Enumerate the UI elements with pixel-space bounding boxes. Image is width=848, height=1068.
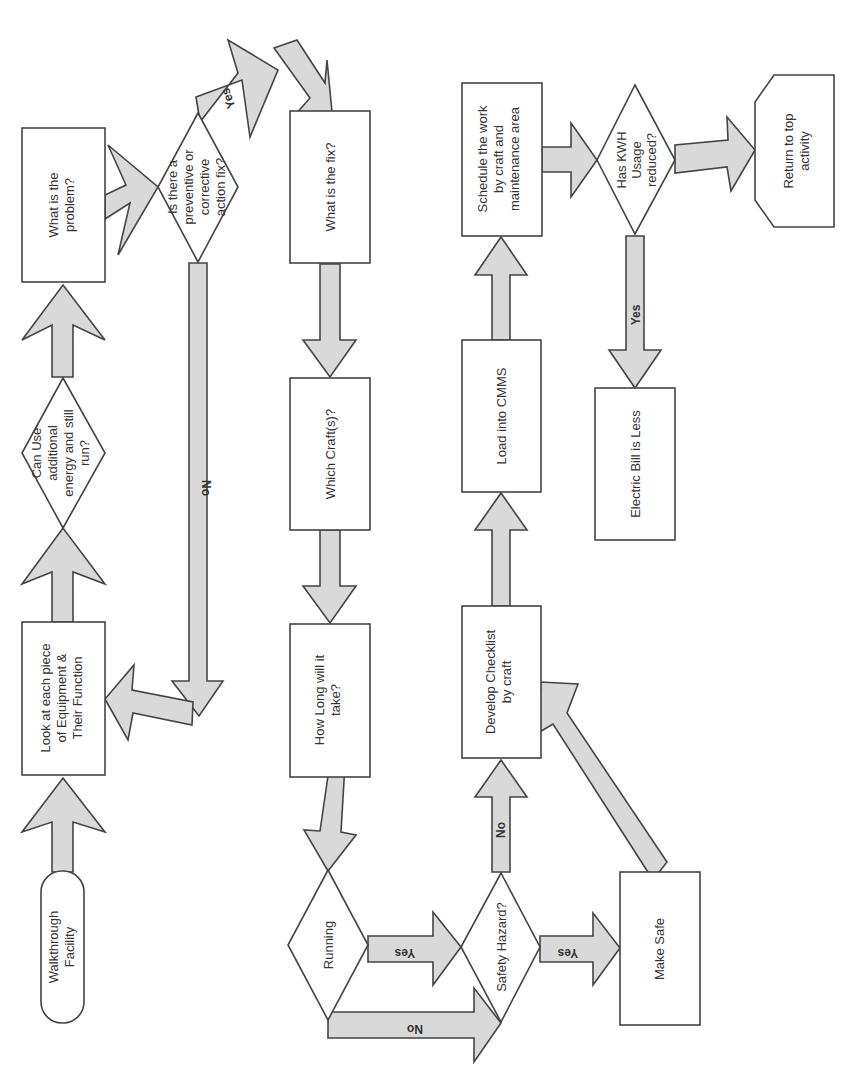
arrow-is-there-yes — [196, 40, 278, 137]
node-label: Is there a — [165, 159, 180, 214]
node-cmms: Load into CMMS — [462, 340, 541, 492]
node-label: action fix? — [213, 158, 228, 217]
svg-text:Which Craft(s)?: Which Craft(s)? — [323, 409, 338, 499]
arrow-into-fix — [274, 40, 332, 115]
svg-text:Is there a: Is there a — [165, 159, 180, 214]
node-label: additional — [45, 425, 60, 481]
node-look: Look at each piece of Equipment & Their … — [22, 622, 105, 775]
node-label: What is the fix? — [323, 143, 338, 232]
svg-text:by craft and: by craft and — [491, 125, 506, 193]
node-bill: Electric Bill is Less — [595, 388, 675, 540]
node-label: Safety Hazard? — [494, 902, 509, 992]
node-running: Running — [288, 870, 368, 1020]
node-return: Return to top activity — [755, 75, 834, 227]
svg-text:by craft: by craft — [499, 660, 514, 703]
svg-text:Safety Hazard?: Safety Hazard? — [494, 902, 509, 992]
node-label: maintenance area — [507, 106, 522, 211]
node-label: preventive or — [181, 149, 196, 225]
node-label: Can Use — [29, 428, 44, 479]
node-label: corrective — [197, 159, 212, 215]
node-label: take? — [328, 684, 343, 716]
node-label: What is the — [46, 172, 61, 237]
node-label: Make Safe — [652, 918, 667, 980]
svg-text:of Equipment &: of Equipment & — [54, 653, 69, 742]
arrow-walkthrough-to-look — [22, 778, 105, 872]
node-can-use: Can Use additional energy and still run? — [22, 378, 105, 528]
svg-text:What is the: What is the — [46, 172, 61, 237]
node-label: by craft and — [491, 125, 506, 193]
node-walkthrough: Walkthrough Facility — [41, 871, 84, 1023]
arrow-how-long-to-running — [304, 762, 356, 871]
svg-text:Can Use: Can Use — [29, 428, 44, 479]
node-label: Facility — [62, 926, 77, 967]
node-label: reduced? — [644, 133, 659, 187]
svg-text:Facility: Facility — [62, 926, 77, 967]
node-label: of Equipment & — [54, 653, 69, 742]
svg-text:Electric Bill is Less: Electric Bill is Less — [628, 410, 643, 518]
svg-text:Look at each piece: Look at each piece — [38, 643, 53, 752]
svg-text:reduced?: reduced? — [644, 133, 659, 187]
node-is-there: Is there a preventive or corrective acti… — [158, 113, 238, 262]
svg-text:Walkthrough: Walkthrough — [46, 911, 61, 984]
svg-text:Running: Running — [321, 921, 336, 969]
arrow-fix-to-craft — [303, 264, 356, 377]
svg-text:maintenance area: maintenance area — [507, 106, 522, 211]
node-label: Return to top — [781, 113, 796, 188]
arrow-schedule-to-kwh — [542, 123, 597, 197]
arrow-problem-to-is-there — [105, 145, 158, 255]
arrow-is-there-no — [172, 263, 223, 716]
arrow-safety-yes — [540, 913, 620, 985]
node-safety: Safety Hazard? — [461, 873, 540, 1022]
arrow-no-into-look — [105, 665, 193, 740]
edge-label-kwh-yes: Yes — [629, 304, 643, 325]
edge-label-is-there-no: No — [199, 480, 213, 496]
svg-text:Their Function: Their Function — [70, 656, 85, 739]
svg-text:problem?: problem? — [62, 178, 77, 232]
node-make-safe: Make Safe — [620, 872, 700, 1025]
svg-text:preventive or: preventive or — [181, 149, 196, 225]
flowchart-canvas: Yes No Yes No Yes No Yes Walkthrough Fac… — [0, 0, 848, 1068]
edge-label-running-no: No — [407, 1022, 423, 1036]
node-problem: What is the problem? — [22, 128, 105, 282]
node-label: by craft — [499, 660, 514, 703]
node-craft: Which Craft(s)? — [290, 378, 370, 530]
node-label: How Long will it — [312, 654, 327, 745]
node-label: energy and still — [61, 409, 76, 497]
node-label: Has KWH — [614, 131, 629, 188]
node-label: Walkthrough — [46, 911, 61, 984]
node-label: Schedule the work — [475, 105, 490, 212]
node-label: Look at each piece — [38, 643, 53, 752]
node-how-long: How Long will it take? — [290, 624, 370, 777]
svg-text:Make Safe: Make Safe — [652, 918, 667, 980]
edge-label-safety-no: No — [494, 822, 508, 838]
svg-text:take?: take? — [328, 684, 343, 716]
svg-text:run?: run? — [77, 440, 92, 466]
svg-text:How Long will it: How Long will it — [312, 654, 327, 745]
node-label: Electric Bill is Less — [628, 410, 643, 518]
node-schedule: Schedule the work by craft and maintenan… — [462, 83, 542, 236]
svg-text:Usage: Usage — [629, 141, 644, 179]
node-kwh: Has KWH Usage reduced? — [597, 85, 675, 234]
edge-label-safety-yes: Yes — [557, 946, 578, 960]
node-label: Which Craft(s)? — [323, 409, 338, 499]
node-label: Usage — [629, 141, 644, 179]
arrow-make-safe-to-checklist — [538, 682, 667, 880]
svg-text:Schedule the work: Schedule the work — [475, 105, 490, 212]
svg-text:additional: additional — [45, 425, 60, 481]
node-label: Load into CMMS — [494, 367, 509, 464]
svg-text:Develop Checklist: Develop Checklist — [483, 630, 498, 734]
svg-text:action fix?: action fix? — [213, 158, 228, 217]
node-checklist: Develop Checklist by craft — [462, 606, 541, 758]
svg-text:corrective: corrective — [197, 159, 212, 215]
arrow-kwh-to-return — [675, 117, 755, 191]
svg-text:Load into CMMS: Load into CMMS — [494, 367, 509, 464]
svg-text:What is the fix?: What is the fix? — [323, 143, 338, 232]
node-label: problem? — [62, 178, 77, 232]
arrow-checklist-to-cmms — [475, 493, 527, 606]
arrow-craft-to-how-long — [303, 530, 356, 623]
node-label: Running — [321, 921, 336, 969]
arrow-can-use-to-problem — [22, 285, 105, 377]
svg-text:Has KWH: Has KWH — [614, 131, 629, 188]
svg-text:energy and still: energy and still — [61, 409, 76, 497]
arrow-cmms-to-schedule — [475, 237, 527, 340]
